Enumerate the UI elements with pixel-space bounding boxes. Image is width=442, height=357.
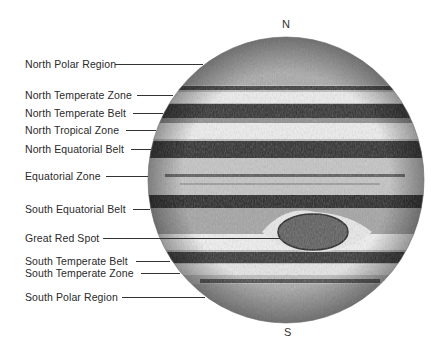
leader-line — [133, 113, 163, 114]
feature-label: South Polar Region — [25, 291, 118, 303]
leader-line — [122, 297, 205, 298]
feature-label: North Temperate Belt — [25, 107, 126, 119]
leader-line — [136, 261, 170, 262]
feature-label: North Equatorial Belt — [25, 143, 124, 155]
feature-label: Great Red Spot — [25, 232, 99, 244]
feature-label: North Tropical Zone — [25, 124, 119, 136]
feature-label: South Equatorial Belt — [25, 203, 126, 215]
leader-line — [133, 209, 150, 210]
leader-line — [115, 64, 203, 65]
feature-label: South Temperate Zone — [25, 267, 134, 279]
feature-label: North Temperate Zone — [25, 89, 132, 101]
leader-line — [131, 149, 151, 150]
feature-label: Equatorial Zone — [25, 170, 101, 182]
leader-line — [141, 273, 180, 274]
feature-label: South Temperate Belt — [25, 255, 128, 267]
planet-disk — [140, 30, 440, 330]
north-marker: N — [282, 18, 290, 30]
leader-line — [106, 176, 148, 177]
south-marker: S — [284, 326, 291, 338]
feature-label: North Polar Region — [25, 58, 116, 70]
leader-line — [126, 130, 156, 131]
leader-line — [137, 95, 173, 96]
leader-line — [103, 238, 280, 239]
